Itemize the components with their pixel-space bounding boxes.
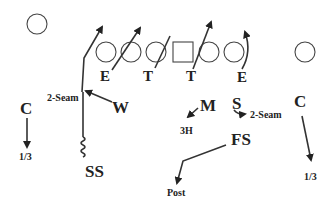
offense-player-lineman-5 (224, 42, 244, 62)
dline-label-t-left: T (143, 68, 153, 84)
mike-arrow (188, 108, 198, 117)
rush-arrow-left-end (112, 28, 140, 70)
free-safety-arrow (177, 145, 226, 183)
corner-right-arrow (302, 116, 311, 160)
will-assignment: 2-Seam (47, 92, 79, 103)
rush-arrow-right-end (242, 32, 248, 69)
offense-player-lineman-1 (96, 42, 116, 62)
will-label: W (112, 98, 129, 117)
corner-left-assignment: 1/3 (19, 151, 32, 162)
sam-assignment: 2-Seam (250, 109, 282, 120)
mike-assignment: 3H (180, 125, 193, 136)
offense-player-wr-right (295, 42, 315, 62)
strong-safety-label: SS (85, 162, 104, 181)
offense-player-wr-left (27, 14, 47, 34)
corner-left-label: C (20, 99, 32, 118)
mike-label: M (200, 96, 216, 115)
corner-right-assignment: 1/3 (304, 171, 317, 182)
free-safety-label: FS (231, 130, 251, 149)
dline-label-e-left: E (100, 68, 110, 84)
rush-arrow-left-tackle (155, 36, 170, 68)
free-safety-assignment: Post (167, 187, 186, 198)
corner-right-label: C (294, 92, 306, 111)
dline-label-e-right: E (237, 69, 247, 85)
dline-label-t-right: T (186, 68, 196, 84)
sam-label: S (232, 94, 241, 113)
strong-safety-squiggle (81, 137, 85, 157)
play-diagram: E T T E C 1/3 2-Seam W SS M 3H S 2-Seam … (0, 0, 334, 205)
will-arrow (86, 91, 112, 102)
offense-player-center (173, 42, 193, 62)
